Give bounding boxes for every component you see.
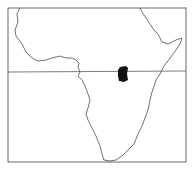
equator-line [8, 71, 186, 72]
highlighted-region [118, 66, 128, 82]
africa-map [0, 0, 192, 171]
africa-coastline [15, 8, 182, 161]
